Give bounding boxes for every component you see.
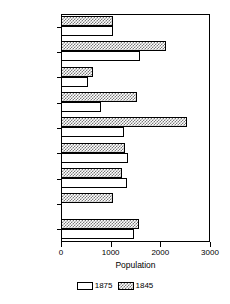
category-row: Thurman	[61, 191, 210, 216]
category-row: Johnsburg	[61, 115, 210, 140]
category-tick	[57, 77, 61, 78]
x-tick-label-2000: 2000	[140, 248, 180, 257]
stipple-swatch-icon	[118, 282, 134, 290]
bar-1875-bolton	[61, 26, 113, 36]
x-axis-tick-labels: 0100020003000	[0, 248, 230, 259]
x-tick-label-1000: 1000	[91, 248, 131, 257]
bar-1845-bolton	[61, 16, 113, 26]
bar-1845-chester	[61, 41, 166, 51]
population-bar-chart: BoltonChesterHagueHoriconJohnsburgLake L…	[0, 0, 230, 304]
category-tick	[57, 103, 61, 104]
bar-1875-hague	[61, 77, 88, 87]
category-tick	[57, 128, 61, 129]
category-row: Chester	[61, 39, 210, 64]
bar-1845-warrensburg	[61, 219, 139, 229]
bar-1845-horicon	[61, 92, 137, 102]
bar-1845-hague	[61, 67, 93, 77]
category-row: Bolton	[61, 14, 210, 39]
category-tick	[57, 153, 61, 154]
bar-1845-lake-luzerne	[61, 143, 125, 153]
category-row: Lake Luzerne	[61, 141, 210, 166]
category-row: Horicon	[61, 90, 210, 115]
category-row: Hague	[61, 65, 210, 90]
bar-1845-stony-creek	[61, 168, 122, 178]
chart-legend: 1875 1845	[0, 281, 230, 290]
x-tick-1000	[111, 242, 112, 247]
bar-1845-thurman	[61, 193, 113, 203]
legend-entry-1875: 1875	[77, 281, 113, 290]
category-tick	[57, 179, 61, 180]
category-tick	[57, 229, 61, 230]
category-row: Stony Creek	[61, 166, 210, 191]
bar-1845-johnsburg	[61, 117, 187, 127]
x-tick-3000	[210, 242, 211, 247]
x-tick-2000	[160, 242, 161, 247]
legend-label-1875: 1875	[95, 281, 113, 290]
bar-1875-chester	[61, 51, 140, 61]
bar-1875-lake-luzerne	[61, 153, 128, 163]
category-tick	[57, 204, 61, 205]
x-tick-0	[61, 242, 62, 247]
x-tick-label-3000: 3000	[190, 248, 230, 257]
x-tick-label-0: 0	[41, 248, 81, 257]
x-axis-ticks	[61, 242, 210, 247]
category-row: Warrensburg	[61, 217, 210, 242]
bar-1875-johnsburg	[61, 127, 124, 137]
category-tick	[57, 27, 61, 28]
bar-1875-horicon	[61, 102, 101, 112]
white-swatch-icon	[77, 282, 93, 290]
bar-1875-stony-creek	[61, 178, 127, 188]
bar-1875-warrensburg	[61, 229, 134, 239]
legend-entry-1845: 1845	[118, 281, 154, 290]
category-tick	[57, 52, 61, 53]
legend-label-1845: 1845	[136, 281, 154, 290]
x-axis-title: Population	[61, 260, 210, 270]
